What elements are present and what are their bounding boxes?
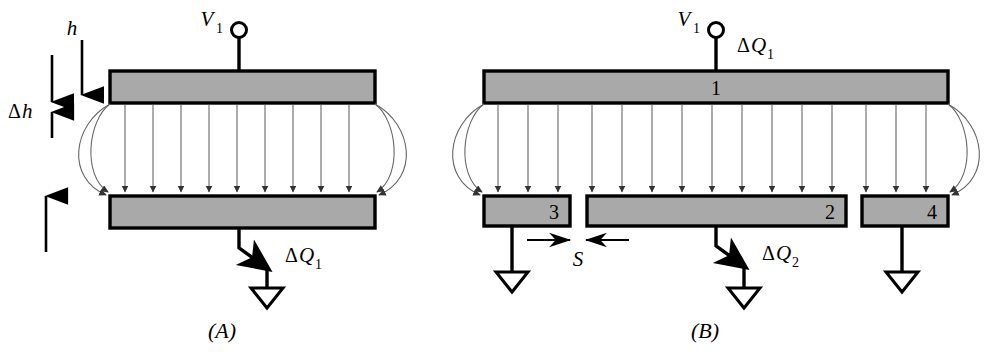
delta-q2-label-delta: Δ bbox=[762, 242, 775, 264]
v1-label-sub: 1 bbox=[693, 21, 700, 36]
v1-terminal-circle[interactable] bbox=[709, 23, 724, 38]
delta-q1-label-q: Q bbox=[299, 243, 314, 267]
delta-q1-b-label-q: Q bbox=[751, 33, 766, 57]
delta-h-label-h: h bbox=[22, 99, 33, 123]
v1-terminal-circle[interactable] bbox=[232, 23, 247, 38]
h-label: h bbox=[67, 16, 78, 40]
panel-a-top-plate[interactable] bbox=[110, 71, 375, 103]
panel-b-caption: (B) bbox=[691, 318, 719, 343]
plate-4-label: 4 bbox=[927, 201, 937, 223]
delta-q2-label-q: Q bbox=[776, 241, 791, 265]
panel-a-caption: (A) bbox=[208, 318, 236, 343]
delta-h-label-delta: Δ bbox=[8, 100, 21, 122]
plate-1-label: 1 bbox=[711, 77, 721, 99]
delta-q1-b-label-delta: Δ bbox=[737, 34, 750, 56]
panel-a-bottom-plate[interactable] bbox=[110, 196, 375, 228]
delta-q1-label-delta: Δ bbox=[285, 244, 298, 266]
plate-2-label: 2 bbox=[825, 201, 835, 223]
capacitor-field-diagram: h Δ h V 1 bbox=[0, 0, 1004, 360]
v1-label: V bbox=[201, 7, 216, 31]
panel-b-plate-1-group[interactable]: 1 bbox=[484, 71, 948, 103]
v1-label-sub: 1 bbox=[216, 21, 223, 36]
panel-b-plate-2-group[interactable]: 2 bbox=[587, 196, 846, 226]
figure-container: h Δ h V 1 bbox=[0, 0, 1004, 360]
delta-q2-label-sub: 2 bbox=[792, 255, 799, 270]
figure-background bbox=[0, 0, 1004, 360]
v1-label: V bbox=[678, 7, 693, 31]
delta-q1-b-label-sub: 1 bbox=[767, 47, 774, 62]
s-label: S bbox=[573, 247, 584, 271]
plate-3-label: 3 bbox=[549, 201, 559, 223]
panel-b-plate-2[interactable] bbox=[587, 196, 846, 226]
delta-q1-label-sub: 1 bbox=[315, 257, 322, 272]
